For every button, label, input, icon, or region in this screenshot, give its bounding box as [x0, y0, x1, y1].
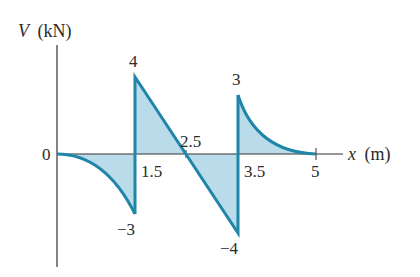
v-axis-label: V (kN)	[18, 21, 72, 42]
tick-label-1-5: 1.5	[141, 162, 162, 181]
tick-label-3-5: 3.5	[244, 162, 265, 181]
origin-label: 0	[42, 145, 51, 164]
value-label-neg-4: −4	[220, 239, 239, 258]
tick-label-2-5: 2.5	[180, 132, 201, 151]
value-label-4: 4	[129, 52, 138, 71]
x-axis-label: x (m)	[347, 144, 391, 165]
value-label-neg-3: −3	[117, 220, 135, 239]
tick-label-5: 5	[311, 162, 320, 181]
fill-segment-1	[57, 154, 135, 214]
value-label-3: 3	[232, 70, 241, 89]
shear-diagram: V (kN) x (m) 0 1.5 2.5 3.5 5 4 −3 3 −4	[0, 0, 420, 277]
